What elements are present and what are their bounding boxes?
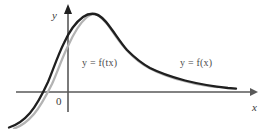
y-axis-label: y — [52, 10, 57, 21]
graph-canvas — [0, 0, 269, 129]
curve-label-f-of-x: y = f(x) — [180, 58, 212, 68]
origin-label: 0 — [56, 96, 62, 107]
x-axis-arrowhead-icon — [250, 88, 258, 96]
function-graph-figure: y x 0 y = f(tx) y = f(x) — [0, 0, 269, 129]
curve-label-f-of-tx: y = f(tx) — [82, 58, 117, 68]
curve-f-of-tx — [14, 14, 218, 128]
y-axis-arrowhead-icon — [64, 4, 72, 14]
x-axis-label: x — [252, 102, 257, 113]
curve-f-of-x — [9, 14, 236, 128]
